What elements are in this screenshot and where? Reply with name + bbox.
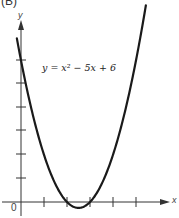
parabola-curve (17, 5, 146, 208)
x-axis-arrow-icon (160, 199, 170, 205)
x-axis-label: x (172, 195, 177, 205)
parabola-plot (0, 0, 179, 218)
origin-label: 0 (11, 202, 17, 213)
y-axis-arrow-icon (18, 20, 24, 30)
y-axis-label: y (18, 10, 23, 20)
equation-label: y = x² − 5x + 6 (42, 62, 116, 73)
